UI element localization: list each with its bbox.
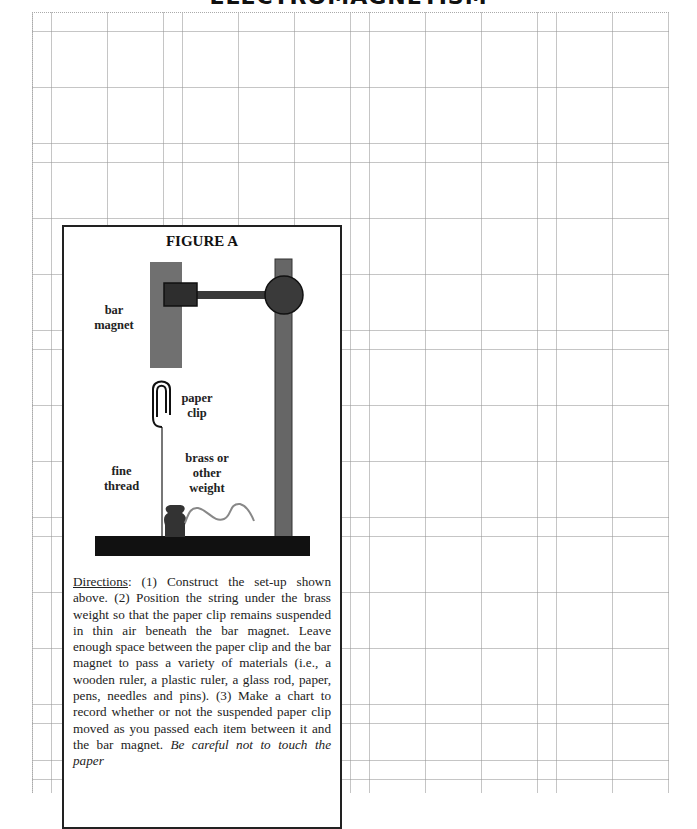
weight-label-line2: other <box>178 466 236 481</box>
loose-string <box>185 504 254 523</box>
paper-clip-label-line2: clip <box>177 406 217 421</box>
fine-thread-label-line2: thread <box>99 479 144 494</box>
paper-clip-label: paper clip <box>177 391 217 421</box>
weight-label-line3: weight <box>178 481 236 496</box>
directions-heading: Directions <box>73 574 128 589</box>
figure-a-box: FIGURE A bar magnet paper clip fine thr <box>62 225 342 829</box>
bar-magnet-label-line2: magnet <box>89 318 139 333</box>
clamp <box>164 283 197 306</box>
bar-magnet-label-line1: bar <box>89 303 139 318</box>
page-title: ELECTROMAGNETISM <box>0 0 697 8</box>
directions-text: Directions: (1) Construct the set-up sho… <box>73 574 331 770</box>
directions-body: : (1) Construct the set-up shown above. … <box>73 574 331 752</box>
stand-knob <box>265 276 303 314</box>
stand-arm <box>194 291 266 299</box>
weight-label: brass or other weight <box>178 451 236 496</box>
weight-label-line1: brass or <box>178 451 236 466</box>
bar-magnet-label: bar magnet <box>89 303 139 333</box>
paper-clip-label-line1: paper <box>177 391 217 406</box>
paper-clip-icon <box>153 382 170 428</box>
fine-thread-label-line1: fine <box>99 464 144 479</box>
bar-magnet <box>150 262 182 368</box>
brass-weight <box>164 505 186 537</box>
stand-base <box>95 536 310 556</box>
fine-thread-label: fine thread <box>99 464 144 494</box>
